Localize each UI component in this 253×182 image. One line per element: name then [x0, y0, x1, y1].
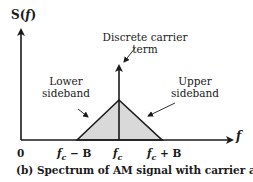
lower-sideband-pointer-arrow: [78, 109, 88, 117]
carrier-annotation: Discrete carrier term: [95, 31, 195, 55]
y-axis-label: S(f): [11, 9, 36, 21]
upper-sideband-pointer-arrow: [148, 103, 175, 116]
tick-fc: fc: [113, 147, 122, 163]
x-axis-label: f: [236, 130, 241, 142]
tick-fc-plus-b: fc + B: [147, 147, 181, 163]
lower-sideband-annotation: Lower sideband: [36, 75, 96, 99]
tick-fc-minus-b: fc − B: [57, 147, 91, 163]
figure-caption: (b) Spectrum of AM signal with carrier a…: [16, 164, 253, 180]
upper-sideband-annotation: Upper sideband: [160, 75, 230, 99]
origin-label: 0: [17, 147, 24, 159]
